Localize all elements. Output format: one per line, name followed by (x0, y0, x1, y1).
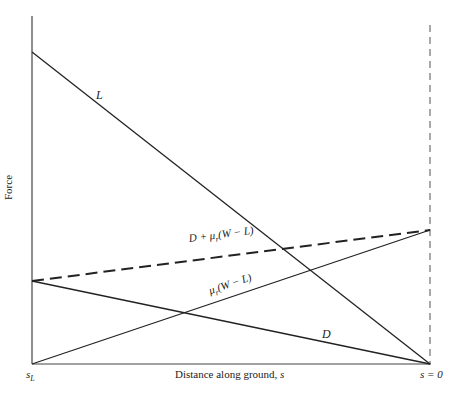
sum-prefix-text: D + μ (188, 229, 216, 244)
y-axis-label: Force (2, 175, 14, 200)
y-axis-label-text: Force (2, 175, 14, 200)
drag-line (32, 281, 430, 364)
drag-curve-label: D (322, 327, 331, 342)
x-tick-sL: sL (26, 368, 35, 383)
x-axis-label: Distance along ground, s (175, 368, 284, 380)
x-axis-label-text: Distance along ground, (175, 368, 280, 380)
force-diagram (0, 0, 455, 396)
lift-curve-label: L (96, 88, 103, 103)
friction-line (32, 230, 430, 364)
x-tick-s0: s = 0 (420, 368, 443, 380)
drag-label-text: D (322, 327, 331, 341)
sL-sub-text: L (30, 374, 34, 383)
x-axis-label-var: s (280, 368, 284, 380)
lift-line (32, 52, 430, 364)
lift-label-text: L (96, 88, 103, 102)
s0-text: s = 0 (420, 368, 443, 380)
